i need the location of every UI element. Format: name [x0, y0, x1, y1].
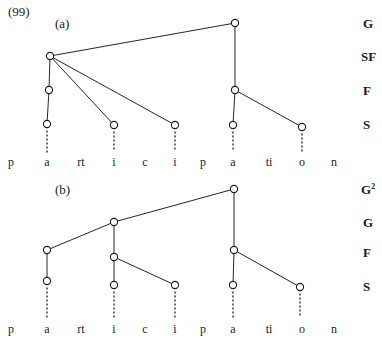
segment-label: ti — [266, 155, 273, 170]
tier-label-text: F — [363, 245, 371, 260]
segment-label: c — [142, 322, 147, 337]
tier-label-superscript: 2 — [371, 182, 375, 191]
tier-label: G — [363, 215, 373, 231]
segment-label: p — [200, 322, 206, 337]
segment-label: o — [299, 322, 305, 337]
tier-label-text: F — [363, 83, 371, 98]
tier-label-text: G — [363, 215, 373, 230]
segment-label: i — [173, 322, 176, 337]
tier-label-text: SF — [361, 49, 376, 64]
segment-label: rt — [77, 155, 84, 170]
tier-label: SF — [361, 49, 376, 65]
tier-label: F — [363, 245, 371, 261]
tier-label-text: G — [361, 182, 371, 197]
metrical-tree-figure: (99) (a)GSFFSparticipation(b)G2GFSpartic… — [0, 0, 382, 347]
segment-label: ti — [266, 322, 273, 337]
segment-label: n — [331, 322, 337, 337]
segment-label: c — [142, 155, 147, 170]
segment-label: rt — [77, 322, 84, 337]
diagram-sub-label: (a) — [55, 16, 69, 32]
diagram-sub-label: (b) — [55, 182, 70, 198]
tier-label: G — [363, 16, 373, 32]
tier-label: S — [363, 279, 370, 295]
tier-label-text: S — [363, 117, 370, 132]
segment-label: i — [173, 155, 176, 170]
segment-label: a — [230, 155, 235, 170]
segment-label: i — [112, 322, 115, 337]
segment-label: a — [44, 322, 49, 337]
tree-labels-overlay: (a)GSFFSparticipation(b)G2GFSparticipati… — [0, 0, 382, 347]
segment-label: n — [331, 155, 337, 170]
tier-label: S — [363, 117, 370, 133]
tier-label: F — [363, 83, 371, 99]
segment-label: o — [299, 155, 305, 170]
tier-label-text: G — [363, 16, 373, 31]
segment-label: p — [200, 155, 206, 170]
segment-label: a — [44, 155, 49, 170]
segment-label: p — [8, 322, 14, 337]
tier-label: G2 — [361, 182, 375, 198]
tier-label-text: S — [363, 279, 370, 294]
segment-label: p — [8, 155, 14, 170]
segment-label: a — [230, 322, 235, 337]
segment-label: i — [112, 155, 115, 170]
